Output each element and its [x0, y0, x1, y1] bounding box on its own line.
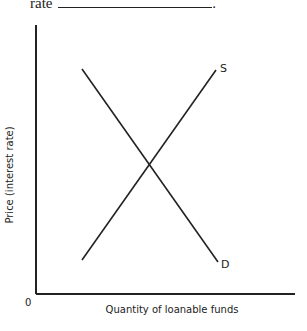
supply-label: S: [220, 62, 227, 75]
x-axis-label: Quantity of loanable funds: [106, 304, 239, 315]
supply-demand-chart: [0, 0, 307, 331]
y-axis-label: Price (interest rate): [4, 126, 15, 223]
demand-curve: [82, 69, 218, 262]
demand-label: D: [221, 258, 229, 271]
origin-label: 0: [25, 297, 31, 308]
